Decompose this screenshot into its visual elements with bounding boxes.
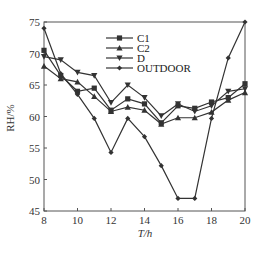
x-axis-title: T/h: [138, 227, 153, 239]
data-point-c1: [41, 48, 46, 53]
y-tick-label: 45: [29, 205, 41, 217]
y-axis-title: RH/%: [4, 104, 16, 132]
data-point-d: [158, 113, 164, 119]
x-tick-label: 20: [240, 214, 252, 226]
data-point-outdoor: [41, 26, 46, 31]
data-point-d: [91, 73, 97, 79]
data-point-c1: [125, 96, 130, 101]
x-tick-label: 16: [173, 214, 185, 226]
data-point-outdoor: [209, 116, 214, 121]
legend-marker-outdoor: [117, 65, 122, 70]
x-tick-label: 18: [206, 214, 218, 226]
data-point-c2: [41, 63, 47, 69]
data-point-c1: [92, 86, 97, 91]
legend-item-outdoor: OUTDOOR: [106, 62, 191, 74]
y-tick-label: 50: [29, 174, 41, 186]
data-point-d: [108, 100, 114, 106]
legend-marker-c1: [117, 35, 122, 40]
legend: C1C2DOUTDOOR: [106, 32, 191, 74]
data-point-outdoor: [108, 150, 113, 155]
y-tick-label: 70: [29, 48, 41, 60]
data-point-outdoor: [226, 55, 231, 60]
legend-label-outdoor: OUTDOOR: [137, 62, 191, 74]
data-point-outdoor: [242, 19, 247, 24]
y-tick-label: 75: [29, 16, 41, 28]
data-point-c1: [242, 81, 247, 86]
data-point-c1: [142, 101, 147, 106]
y-tick-label: 60: [29, 111, 41, 123]
x-tick-label: 12: [106, 214, 117, 226]
data-point-c2: [125, 104, 131, 110]
data-point-outdoor: [159, 163, 164, 168]
data-point-d: [192, 109, 198, 115]
rh-line-chart: 810121416182045505560657075 C1C2DOUTDOOR…: [0, 0, 267, 255]
y-tick-label: 65: [29, 79, 41, 91]
x-tick-label: 8: [41, 214, 47, 226]
data-point-outdoor: [175, 196, 180, 201]
y-tick-label: 55: [29, 142, 41, 154]
data-point-outdoor: [192, 196, 197, 201]
x-tick-label: 10: [72, 214, 84, 226]
x-tick-label: 14: [139, 214, 151, 226]
